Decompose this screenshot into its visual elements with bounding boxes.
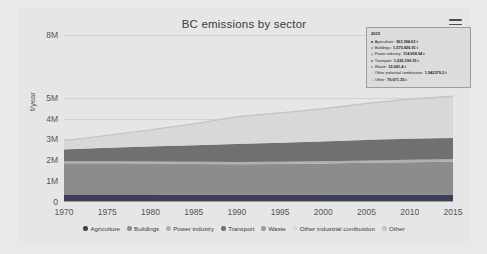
x-tick-label: 2005 <box>357 207 376 217</box>
tooltip-series-dot <box>371 53 373 55</box>
legend-label: Buildings <box>134 225 159 232</box>
legend-label: Other <box>389 225 404 232</box>
menu-bar-1 <box>449 19 462 21</box>
y-axis-label: t/year <box>28 92 37 111</box>
legend-swatch-icon <box>382 226 387 231</box>
tooltip-series-value: 1,942379.2 t <box>425 70 447 76</box>
y-tick-label: 8M <box>46 30 58 40</box>
x-tick-label: 1990 <box>227 207 246 217</box>
y-tick-label: 1M <box>46 176 58 186</box>
tooltip-series-dot <box>371 60 373 62</box>
x-axis-line <box>64 201 453 202</box>
legend-swatch-icon <box>127 226 132 231</box>
tooltip-series-value: 76,671.35 t <box>387 77 407 83</box>
tooltip-series-dot <box>371 72 373 74</box>
legend-item[interactable]: Transport <box>221 225 254 232</box>
x-tick-label: 1975 <box>98 207 117 217</box>
legend-swatch-icon <box>261 226 266 231</box>
area-series <box>64 162 453 195</box>
tooltip-series-dot <box>371 47 373 49</box>
x-tick-label: 2015 <box>444 207 463 217</box>
legend-item[interactable]: Other industrial combustion <box>293 225 375 232</box>
legend-label: Waste <box>268 225 285 232</box>
x-tick-label: 1980 <box>141 207 160 217</box>
chart-legend: AgricultureBuildingsPower industryTransp… <box>18 225 470 232</box>
legend-label: Transport <box>228 225 254 232</box>
legend-item[interactable]: Power industry <box>166 225 214 232</box>
chart-tooltip: 2015 Agriculture:363,184.63 tBuildings:1… <box>366 27 471 88</box>
tooltip-total: Total: 5104267.28 t <box>371 86 466 88</box>
chart-card: BC emissions by sector t/year 01M2M3M4M5… <box>18 8 470 246</box>
legend-item[interactable]: Other <box>382 225 404 232</box>
legend-item[interactable]: Buildings <box>127 225 159 232</box>
screenshot-root: BC emissions by sector t/year 01M2M3M4M5… <box>0 0 487 254</box>
x-tick-label: 2000 <box>314 207 333 217</box>
y-tick-label: 3M <box>46 134 58 144</box>
x-tick-label: 2010 <box>400 207 419 217</box>
legend-swatch-icon <box>221 226 226 231</box>
tooltip-series-dot <box>371 79 373 81</box>
y-tick-label: 4M <box>46 114 58 124</box>
tooltip-rows: Agriculture:363,184.63 tBuildings:1,570,… <box>371 39 466 83</box>
menu-bar-2 <box>449 24 462 26</box>
y-tick-label: 5M <box>46 93 58 103</box>
legend-swatch-icon <box>293 226 298 231</box>
tooltip-year: 2015 <box>371 31 466 38</box>
tooltip-row: Other:76,671.35 t <box>371 77 466 83</box>
legend-item[interactable]: Waste <box>261 225 285 232</box>
legend-label: Other industrial combustion <box>300 225 375 232</box>
tooltip-series-name: Other: <box>375 77 386 83</box>
x-tick-label: 1995 <box>271 207 290 217</box>
tooltip-series-dot <box>371 66 373 68</box>
x-tick-label: 1970 <box>55 207 74 217</box>
x-tick-label: 1985 <box>184 207 203 217</box>
legend-label: Power industry <box>173 225 214 232</box>
legend-swatch-icon <box>166 226 171 231</box>
legend-swatch-icon <box>83 226 88 231</box>
tooltip-series-dot <box>371 41 373 43</box>
y-tick-label: 2M <box>46 155 58 165</box>
legend-label: Agriculture <box>90 225 120 232</box>
legend-item[interactable]: Agriculture <box>83 225 120 232</box>
y-tick-label: 0 <box>53 197 58 207</box>
